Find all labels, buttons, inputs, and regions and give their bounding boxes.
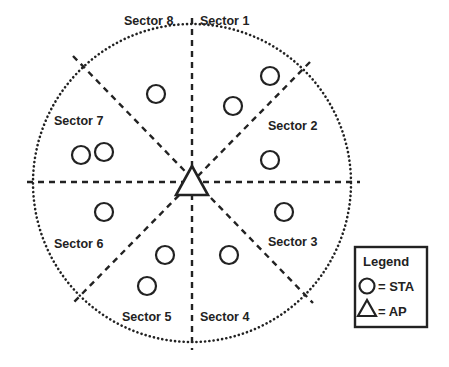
ap-triangle-icon — [176, 166, 208, 195]
sector-labels: Sector 1 Sector 2 Sector 3 Sector 4 Sect… — [54, 14, 317, 324]
sta-icon — [95, 143, 113, 161]
legend: Legend = STA = AP — [355, 247, 427, 327]
sta-icon — [261, 67, 279, 85]
sector-label: Sector 4 — [200, 310, 249, 324]
sta-icon — [156, 246, 174, 264]
sector-label: Sector 3 — [268, 235, 317, 249]
sector-label: Sector 6 — [54, 237, 103, 251]
sta-icon — [95, 203, 113, 221]
legend-title: Legend — [363, 254, 409, 269]
legend-sta-icon — [360, 279, 375, 294]
sta-icon — [72, 146, 90, 164]
sector-label: Sector 8 — [124, 14, 173, 28]
sector-label: Sector 1 — [200, 14, 249, 28]
sta-icon — [147, 85, 165, 103]
sta-icon — [261, 151, 279, 169]
sector-label: Sector 7 — [54, 114, 103, 128]
legend-sta-label: = STA — [378, 279, 415, 294]
sta-icon — [138, 277, 156, 295]
sector-diagram: Sector 1 Sector 2 Sector 3 Sector 4 Sect… — [0, 0, 449, 367]
sta-icon — [275, 203, 293, 221]
sta-icon — [224, 97, 242, 115]
sta-icon — [220, 246, 238, 264]
legend-ap-label: = AP — [378, 304, 407, 319]
sector-label: Sector 5 — [122, 310, 171, 324]
sector-label: Sector 2 — [268, 119, 317, 133]
